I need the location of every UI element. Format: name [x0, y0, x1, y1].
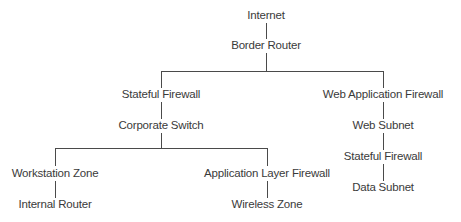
edge-waf-web-subnet: [383, 102, 384, 119]
node-wireless-zone: Wireless Zone: [232, 199, 303, 211]
node-application-layer-firewall: Application Layer Firewall: [204, 168, 330, 180]
edge-to-workstation-zone: [55, 148, 56, 166]
edge-web-subnet-stateful-firewall: [383, 133, 384, 150]
node-data-subnet: Data Subnet: [352, 182, 414, 194]
node-border-router: Border Router: [231, 40, 301, 52]
edge-internet-border-router: [266, 23, 267, 39]
edge-corporate-switch-stem: [161, 133, 162, 148]
node-stateful-firewall-right: Stateful Firewall: [344, 151, 422, 163]
edge-stateful-firewall-data-subnet: [383, 164, 384, 181]
node-stateful-firewall-left: Stateful Firewall: [122, 89, 200, 101]
node-internet: Internet: [247, 10, 284, 22]
node-corporate-switch: Corporate Switch: [118, 120, 203, 132]
node-web-application-firewall: Web Application Firewall: [323, 89, 443, 101]
edge-border-router-stem: [266, 53, 267, 71]
edge-border-router-branch: [161, 71, 384, 72]
edge-to-web-application-firewall: [383, 71, 384, 88]
edge-to-application-layer-firewall: [267, 148, 268, 166]
node-workstation-zone: Workstation Zone: [12, 168, 99, 180]
edge-corporate-switch-branch: [55, 148, 268, 149]
node-internal-router: Internal Router: [18, 199, 91, 211]
node-web-subnet: Web Subnet: [352, 120, 413, 132]
edge-to-stateful-firewall-left: [161, 71, 162, 88]
edge-workstation-zone-internal-router: [55, 181, 56, 198]
edge-stateful-firewall-corporate-switch: [161, 102, 162, 119]
edge-app-layer-firewall-wireless-zone: [267, 181, 268, 198]
